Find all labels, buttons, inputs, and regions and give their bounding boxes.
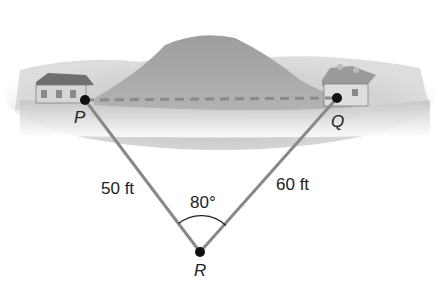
label-r: R [194, 261, 206, 281]
point-p [80, 95, 90, 105]
label-side-qr: 60 ft [276, 175, 309, 195]
point-r [195, 247, 205, 257]
point-q [332, 93, 342, 103]
label-side-pr: 50 ft [101, 179, 134, 199]
diagram-canvas [0, 0, 438, 296]
segment-pq [85, 98, 337, 100]
label-q: Q [331, 112, 344, 132]
label-angle-r: 80° [190, 193, 216, 213]
angle-arc [179, 216, 226, 226]
label-p: P [74, 108, 85, 128]
